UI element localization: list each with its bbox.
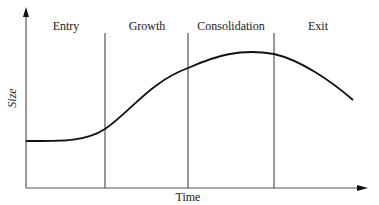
x-axis-label: Time <box>176 190 201 205</box>
y-axis-arrow-icon <box>23 7 29 17</box>
life-cycle-curve <box>26 52 353 141</box>
x-axis-arrow-icon <box>357 185 368 191</box>
phase-label-consolidation: Consolidation <box>197 19 264 34</box>
phase-label-exit: Exit <box>308 19 328 34</box>
phase-label-entry: Entry <box>53 19 80 34</box>
phase-label-growth: Growth <box>129 19 166 34</box>
y-axis-label: Size <box>5 88 20 107</box>
industry-life-cycle-diagram: Entry Growth Consolidation Exit Time Siz… <box>0 0 379 205</box>
